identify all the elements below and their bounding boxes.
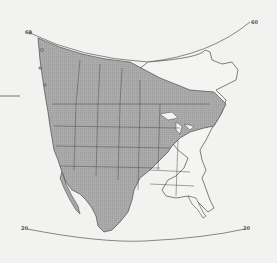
latitude-20-line bbox=[27, 229, 245, 241]
north-america-map bbox=[0, 0, 277, 263]
latitude-label-bottom-left: 20 bbox=[21, 226, 28, 231]
latitude-label-top-left: 60 bbox=[25, 30, 32, 35]
latitude-label-top-right: 60 bbox=[251, 20, 258, 25]
latitude-label-bottom-right: 20 bbox=[243, 226, 250, 231]
range-map: 60 60 20 20 bbox=[0, 0, 277, 263]
